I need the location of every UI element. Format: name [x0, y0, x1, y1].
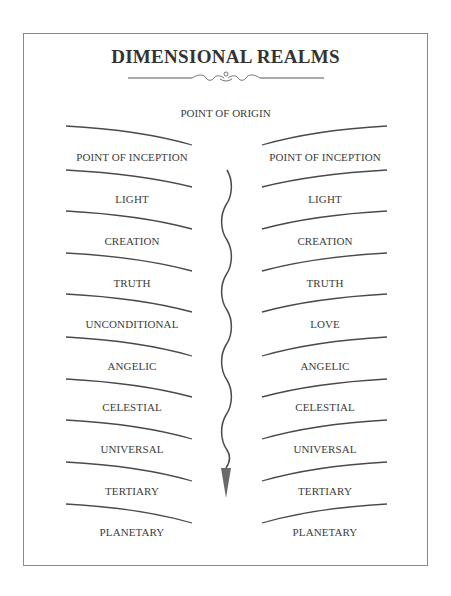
right-realm-label: CELESTIAL [245, 401, 405, 413]
left-realm-label: UNCONDITIONAL [52, 318, 212, 330]
downward-wavy-arrow-icon [221, 170, 231, 498]
left-realm-label: TRUTH [52, 277, 212, 289]
right-realm-label: UNIVERSAL [245, 443, 405, 455]
left-realm-label: ANGELIC [52, 360, 212, 372]
left-realm-label: LIGHT [52, 193, 212, 205]
right-realm-label: POINT OF INCEPTION [245, 151, 405, 163]
right-realm-label: CREATION [245, 235, 405, 247]
right-realm-label: PLANETARY [245, 526, 405, 538]
right-realm-label: TERTIARY [245, 485, 405, 497]
right-realm-label: TRUTH [245, 277, 405, 289]
left-realm-label: UNIVERSAL [52, 443, 212, 455]
left-realm-label: POINT OF INCEPTION [52, 151, 212, 163]
diagram-lines [0, 0, 451, 596]
left-realm-label: CREATION [52, 235, 212, 247]
left-realm-label: TERTIARY [52, 485, 212, 497]
right-realm-label: ANGELIC [245, 360, 405, 372]
left-realm-label: PLANETARY [52, 526, 212, 538]
left-realm-label: CELESTIAL [52, 401, 212, 413]
right-realm-label: LOVE [245, 318, 405, 330]
right-realm-label: LIGHT [245, 193, 405, 205]
